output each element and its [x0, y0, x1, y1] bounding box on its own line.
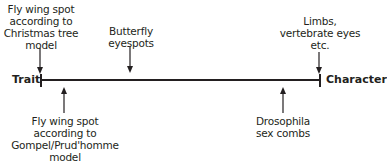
arrow-up-gompel: [61, 87, 67, 113]
arrow-down-christmas-tree: [37, 48, 43, 74]
annotation-butterfly-eyespots: Butterfly eyespots: [108, 25, 154, 49]
annotation-gompel-prudhomme-model: Fly wing spot according to Gompel/Prud'h…: [11, 115, 119, 163]
arrow-down-limbs: [316, 52, 322, 74]
annotation-christmas-tree-model: Fly wing spot according to Christmas tre…: [4, 3, 79, 51]
annotation-limbs-vertebrate-eyes: Limbs, vertebrate eyes etc.: [280, 15, 361, 51]
character-label: Character: [326, 74, 387, 86]
arrow-up-drosophila: [280, 87, 286, 113]
arrow-down-butterfly: [127, 46, 133, 73]
annotation-drosophila-sex-combs: Drosophila sex combs: [256, 115, 310, 139]
trait-label: Trait: [12, 74, 40, 86]
